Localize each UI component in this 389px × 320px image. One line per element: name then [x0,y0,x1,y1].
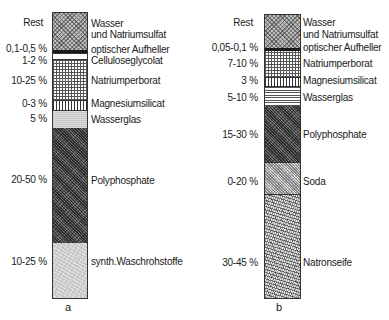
name-label-b-polyphosphate: Polyphosphate [303,130,367,140]
segment-a-polyphosphate [53,128,87,243]
name-label-a-wasserglas: Wasserglas [91,115,141,125]
segment-b-wasserglas [265,86,300,106]
name-label-b-optical-brightener: optischer Aufheller [303,43,381,53]
segment-a-celluloseglycolat [53,53,87,60]
name-label-a-optical-brightener: optischer Aufheller [91,45,169,55]
range-label-b-wasserglas: 5-10 % [198,93,258,103]
range-label-a-celluloseglycolat: 1-2 % [0,56,47,66]
name-label-a-rest-line1: Wasser [91,19,123,29]
range-label-b-natronseife: 30-45 % [198,258,258,268]
range-label-b-rest: Rest [193,18,253,28]
range-label-b-polyphosphate: 15-30 % [198,130,258,140]
name-label-b-wasserglas: Wasserglas [303,93,353,103]
range-label-a-polyphosphate: 20-50 % [0,175,47,185]
range-label-a-wasserglas: 5 % [0,114,47,124]
name-label-b-rest-line2: und Natriumsulfat [303,30,378,40]
name-label-b-magnesiumsilicat: Magnesiumsilicat [303,76,377,86]
name-label-b-natronseife: Natronseife [303,258,352,268]
name-label-a-polyphosphate: Polyphosphate [91,176,155,186]
segment-a-rest [53,13,87,50]
segment-b-natriumperborat [265,51,300,77]
segment-a-magnesiumsilicat [53,100,87,110]
name-label-b-natriumperborat: Natriumperborat [303,59,372,69]
segment-b-magnesiumsilicat [265,77,300,86]
segment-b-natronseife [265,194,300,298]
segment-a-wasserglas [53,110,87,128]
segment-b-polyphosphate [265,106,300,162]
range-label-a-synth: 10-25 % [0,257,47,267]
segment-a-synth-waschrohstoffe [53,243,87,298]
name-label-b-rest-line1: Wasser [303,18,335,28]
range-label-b-natriumperborat: 7-10 % [198,59,258,69]
name-label-a-magnesiumsilicat: Magnesiumsilicat [91,99,165,109]
range-label-a-natriumperborat: 10-25 % [0,76,47,86]
segment-b-rest [265,15,300,48]
range-label-a-magnesiumsilicat: 0-3 % [0,99,47,109]
caption-a: a [65,302,71,313]
name-label-a-natriumperborat: Natriumperborat [91,76,160,86]
range-label-b-soda: 0-20 % [198,177,258,187]
composition-bar-b [264,14,301,299]
range-label-b-magnesiumsilicat: 3 % [198,76,258,86]
name-label-a-celluloseglycolat: Celluloseglycolat [91,56,163,66]
composition-bar-a [52,12,88,299]
name-label-b-soda: Soda [303,177,326,187]
range-label-a-rest: Rest [0,18,43,28]
caption-b: b [276,302,282,313]
name-label-a-synth: synth.Waschrohstoffe [91,257,183,267]
segment-a-natriumperborat [53,60,87,100]
range-label-a-optical-brightener: 0,1-0,5 % [0,44,47,54]
segment-b-soda [265,162,300,194]
range-label-b-optical-brightener: 0,05-0,1 % [198,43,258,53]
name-label-a-rest-line2: und Natriumsulfat [91,30,166,40]
